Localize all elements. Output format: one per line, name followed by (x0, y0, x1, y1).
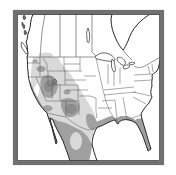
great-basin-core-range (44, 80, 54, 92)
great-salt-lake (53, 79, 56, 84)
west-texas-core-range (65, 104, 77, 114)
mexico-interior-light-patch (70, 132, 82, 150)
range-map-thumbnail (0, 0, 176, 175)
north-america-map (0, 0, 176, 175)
lake-winnipeg (87, 28, 90, 43)
washington-spot-range (33, 59, 38, 62)
alaska-panhandle-islands (22, 15, 27, 35)
oregon-idaho-spot-range (37, 66, 46, 72)
